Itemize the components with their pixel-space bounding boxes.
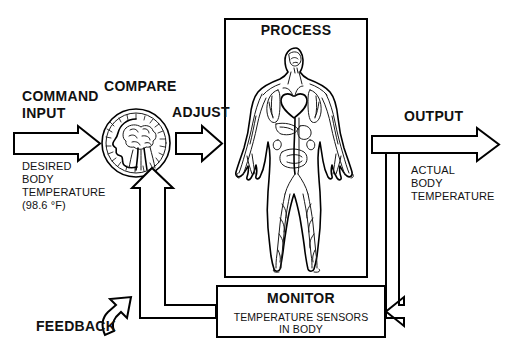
output-label: OUTPUT — [404, 108, 463, 125]
compare-label: COMPARE — [104, 78, 177, 95]
command-input-arrow — [14, 126, 100, 161]
feedback-line-to-compare — [132, 168, 216, 318]
monitor-detail-label: TEMPERATURE SENSORS IN BODY — [216, 311, 386, 336]
command-input-label: COMMAND INPUT — [22, 88, 99, 121]
process-title: PROCESS — [224, 22, 368, 39]
adjust-label: ADJUST — [172, 104, 230, 121]
compare-node — [102, 109, 170, 177]
command-input-detail-label: DESIRED BODY TEMPERATURE (98.6 °F) — [22, 160, 105, 212]
output-detail-label: ACTUAL BODY TEMPERATURE — [411, 164, 494, 203]
adjust-arrow — [176, 126, 222, 161]
monitor-title: MONITOR — [216, 290, 386, 307]
output-branch-to-monitor — [386, 153, 404, 326]
feedback-loop-diagram: COMMAND INPUT DESIRED BODY TEMPERATURE (… — [0, 0, 510, 360]
feedback-label: FEEDBACK — [36, 318, 116, 335]
human-body-circulatory-figure — [236, 48, 354, 272]
